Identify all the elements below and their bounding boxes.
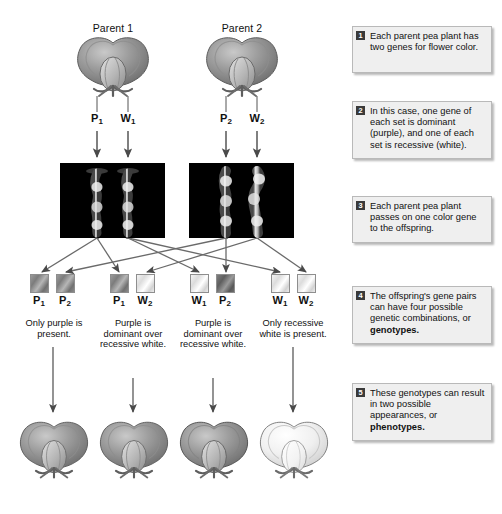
offspring-2-flower xyxy=(176,420,252,480)
gene-subscript: 2 xyxy=(227,117,231,126)
offspring-0-gene-label-1: P2 xyxy=(52,294,78,306)
gene-subscript: 1 xyxy=(131,117,135,126)
gene-subscript: 1 xyxy=(202,299,206,308)
gene-symbol: W xyxy=(273,294,283,306)
gene-subscript: 1 xyxy=(40,299,44,308)
callout-4-number: 4 xyxy=(356,291,365,300)
offspring-3-caption: Only recessive white is present. xyxy=(257,318,329,339)
callout-4-text: The offspring's gene pairs can have four… xyxy=(370,291,477,323)
callout-2: 2 In this case, one gene of each set is … xyxy=(352,101,492,159)
gene-subscript: 2 xyxy=(226,299,230,308)
offspring-2-gene-label-0: W1 xyxy=(186,294,212,306)
parent-2-gene-label-0: P2 xyxy=(213,112,239,124)
gene-symbol: W xyxy=(138,294,148,306)
gene-subscript: 2 xyxy=(66,299,70,308)
parent-1-gene-label-0: P1 xyxy=(84,112,110,124)
pea-flower-icon xyxy=(73,36,153,98)
offspring-0-gene-box-0 xyxy=(30,274,49,293)
parent-1-gene-label-1: W1 xyxy=(115,112,141,124)
gene-subscript: 2 xyxy=(148,299,152,308)
parent-2-chromosome-panel xyxy=(189,163,294,238)
offspring-2-gene-label-1: P2 xyxy=(212,294,238,306)
gene-subscript: 2 xyxy=(260,117,264,126)
parent-2-gene-label-1: W2 xyxy=(244,112,270,124)
gene-symbol: W xyxy=(299,294,309,306)
offspring-1-gene-label-1: W2 xyxy=(132,294,158,306)
offspring-1-gene-label-0: P1 xyxy=(106,294,132,306)
callout-4-bold: genotypes. xyxy=(370,325,419,335)
pea-flower-icon xyxy=(256,420,332,480)
callout-4: 4 The offspring's gene pairs can have fo… xyxy=(352,286,492,344)
callout-2-text: In this case, one gene of each set is do… xyxy=(370,106,474,150)
offspring-3-gene-label-0: W1 xyxy=(267,294,293,306)
gene-subscript: 1 xyxy=(283,299,287,308)
pea-flower-icon xyxy=(176,420,252,480)
parent-1-flower xyxy=(73,36,153,98)
callout-2-number: 2 xyxy=(356,106,365,115)
chromosome-icon xyxy=(60,163,165,238)
offspring-1-caption: Purple is dominant over recessive white. xyxy=(97,318,169,350)
gene-symbol: W xyxy=(192,294,202,306)
parent-2-flower xyxy=(202,36,282,98)
offspring-1-gene-box-0 xyxy=(110,274,129,293)
offspring-2-gene-box-1 xyxy=(216,274,235,293)
offspring-0-gene-box-1 xyxy=(56,274,75,293)
callout-1-text: Each parent pea plant has two genes for … xyxy=(370,31,479,52)
gene-subscript: 1 xyxy=(98,117,102,126)
gene-symbol: W xyxy=(121,112,131,124)
callout-3: 3 Each parent pea plant passes on one co… xyxy=(352,196,492,243)
offspring-3-gene-box-1 xyxy=(297,274,316,293)
gene-symbol: W xyxy=(250,112,260,124)
offspring-3-gene-label-1: W2 xyxy=(293,294,319,306)
callout-3-text: Each parent pea plant passes on one colo… xyxy=(370,201,476,233)
callout-1: 1 Each parent pea plant has two genes fo… xyxy=(352,26,492,73)
offspring-2-gene-box-0 xyxy=(190,274,209,293)
callout-5-text: These genotypes can result in two possib… xyxy=(370,388,484,420)
offspring-3-gene-box-0 xyxy=(271,274,290,293)
callout-5-number: 5 xyxy=(356,388,365,397)
callout-1-number: 1 xyxy=(356,31,365,40)
callout-3-number: 3 xyxy=(356,201,365,210)
gene-subscript: 2 xyxy=(309,299,313,308)
offspring-1-gene-box-1 xyxy=(136,274,155,293)
offspring-1-flower xyxy=(96,420,172,480)
offspring-0-flower xyxy=(16,420,92,480)
parent-1-label: Parent 1 xyxy=(68,22,158,34)
pea-flower-icon xyxy=(202,36,282,98)
parent-1-chromosome-panel xyxy=(60,163,165,238)
gene-subscript: 1 xyxy=(120,299,124,308)
pea-flower-icon xyxy=(16,420,92,480)
offspring-0-caption: Only purple is present. xyxy=(14,318,94,339)
offspring-2-caption: Purple is dominant over recessive white. xyxy=(177,318,249,350)
chromosome-icon xyxy=(189,163,294,238)
genetics-diagram: Parent 1 Parent 2 xyxy=(0,0,502,514)
pea-flower-icon xyxy=(96,420,172,480)
callout-5: 5 These genotypes can result in two poss… xyxy=(352,383,492,441)
parent-2-label: Parent 2 xyxy=(197,22,287,34)
offspring-3-flower xyxy=(256,420,332,480)
callout-5-bold: phenotypes. xyxy=(370,422,425,432)
offspring-0-gene-label-0: P1 xyxy=(26,294,52,306)
